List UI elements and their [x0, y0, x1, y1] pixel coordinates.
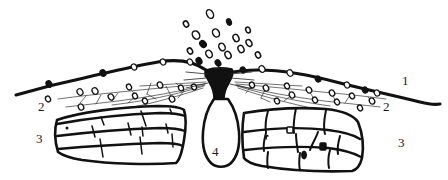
label-2-left: 2: [38, 100, 45, 113]
rock-inclusion: [287, 127, 293, 133]
rock-inclusion: [302, 151, 307, 159]
rock-inclusion: [66, 127, 69, 130]
label-3-right: 3: [398, 136, 405, 149]
label-2-right: 2: [383, 100, 390, 113]
diagram-canvas: [0, 0, 448, 180]
rock-inclusion: [320, 143, 326, 150]
central-vent-body: [203, 99, 239, 167]
label-3-left: 3: [36, 132, 43, 145]
label-1: 1: [402, 74, 409, 87]
volcanic-vent-diagram: 1 2 2 3 3 4: [0, 0, 448, 180]
label-4: 4: [212, 145, 219, 158]
